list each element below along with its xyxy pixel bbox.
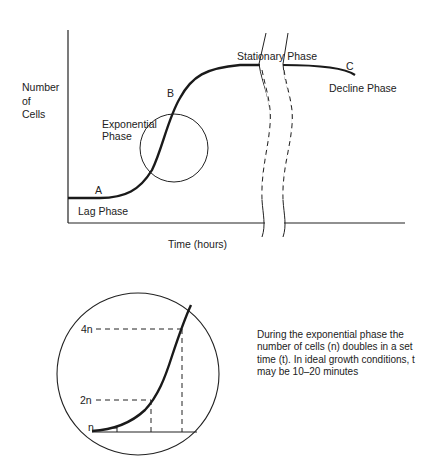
- stationary-decline-curve: [283, 65, 355, 75]
- decline-phase-label: Decline Phase: [329, 82, 397, 94]
- y-axis-label-line-2: of: [22, 95, 31, 107]
- y-axis-label-line-3: Cells: [22, 108, 45, 120]
- growth-curve: [68, 65, 260, 198]
- exponential-phase-label-line-1: Exponential: [102, 118, 157, 130]
- inset-label-2n: 2n: [80, 394, 92, 406]
- inset-label-4n: 4n: [81, 323, 93, 335]
- inset-magnifier-circle: [57, 293, 219, 455]
- exponential-phase-description: During the exponential phase the number …: [257, 329, 427, 379]
- point-b-label: B: [167, 87, 174, 99]
- lag-phase-label: Lag Phase: [78, 205, 128, 217]
- x-axis-label: Time (hours): [168, 238, 227, 250]
- bacterial-growth-diagram: [0, 0, 428, 474]
- exponential-phase-label-line-2: Phase: [102, 130, 132, 142]
- point-a-label: A: [95, 184, 102, 196]
- stationary-phase-label: Stationary Phase: [237, 50, 317, 62]
- inset-label-n: n: [88, 421, 94, 433]
- point-c-label: C: [346, 60, 354, 72]
- y-axis-label-line-1: Number: [22, 81, 59, 93]
- exponential-curve: [92, 305, 191, 431]
